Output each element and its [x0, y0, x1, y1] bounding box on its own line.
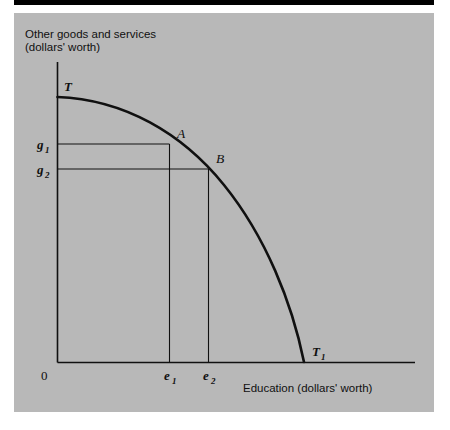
curve-end-label-T1: T 1: [312, 344, 326, 362]
x-tick-label-e1: e 1: [164, 368, 177, 386]
x-axis-title: Education (dollars' worth): [243, 382, 373, 394]
y-tick-g2-base: g: [36, 162, 44, 177]
x-tick-e1-base: e: [164, 368, 170, 383]
curve-end-label-sub: 1: [321, 352, 326, 362]
curve-start-label-T: T: [64, 79, 73, 94]
y-axis-title-line2: (dollars' worth): [25, 41, 100, 53]
point-label-a: A: [176, 126, 186, 141]
x-tick-label-e2: e 2: [203, 368, 216, 386]
point-label-b: B: [216, 151, 224, 166]
y-tick-g1-base: g: [36, 137, 44, 152]
x-tick-e1-sub: 1: [172, 376, 177, 386]
origin-label: 0: [41, 368, 48, 383]
y-axis-title-line1: Other goods and services: [25, 28, 156, 40]
curve-end-label-base: T: [312, 344, 321, 359]
figure-panel: Other goods and services (dollars' worth…: [14, 13, 434, 412]
y-tick-g2-sub: 2: [44, 170, 50, 180]
y-tick-label-g2: g 2: [36, 162, 50, 180]
y-tick-g1-sub: 1: [45, 145, 50, 155]
production-possibilities-chart: Other goods and services (dollars' worth…: [14, 13, 434, 412]
y-tick-label-g1: g 1: [36, 137, 50, 155]
top-divider-rule: [14, 0, 434, 5]
x-tick-e2-base: e: [203, 368, 209, 383]
x-tick-e2-sub: 2: [210, 376, 216, 386]
